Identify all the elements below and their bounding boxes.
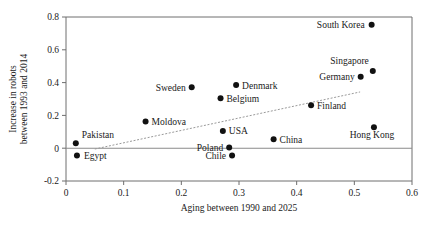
data-point-label: Denmark	[242, 81, 278, 91]
y-tick-label: 0.4	[47, 78, 59, 88]
data-point-label: Hong Kong	[350, 130, 395, 140]
data-point-label: Sweden	[156, 83, 186, 93]
y-tick-label: 0.2	[47, 111, 59, 121]
data-point-label: South Korea	[317, 20, 366, 30]
data-point-label: China	[280, 135, 303, 145]
y-axis-title-line-2: between 1993 and 2014	[19, 54, 29, 145]
data-point-marker	[369, 22, 375, 28]
chart-canvas: 00.10.20.30.40.50.6 -0.200.20.40.60.8 Pa…	[0, 0, 434, 226]
data-point-marker	[271, 136, 277, 142]
data-point-marker	[189, 84, 195, 90]
x-tick-label: 0	[64, 188, 69, 198]
y-tick-label: 0.8	[47, 12, 59, 22]
y-tick-label: -0.2	[44, 176, 59, 186]
data-point-label: Belgium	[227, 94, 260, 104]
y-tick-label: 0.6	[47, 45, 59, 55]
data-point-marker	[358, 74, 364, 80]
scatter-chart-figure: 00.10.20.30.40.50.6 -0.200.20.40.60.8 Pa…	[0, 0, 434, 226]
data-point-marker	[229, 153, 235, 159]
data-point-marker	[74, 153, 80, 159]
data-point-marker	[218, 95, 224, 101]
data-point-marker	[143, 118, 149, 124]
data-point-label: Chile	[205, 151, 226, 161]
y-tick-label: 0	[54, 144, 59, 154]
x-tick-label: 0.1	[118, 188, 130, 198]
data-point-label: Moldova	[152, 117, 187, 127]
data-point-marker	[370, 68, 376, 74]
data-point-marker	[308, 102, 314, 108]
data-point-label: Germany	[319, 72, 355, 82]
data-point-marker	[226, 144, 232, 150]
data-point-label: Singapore	[330, 56, 369, 66]
data-point-label: Pakistan	[82, 130, 114, 140]
x-tick-label: 0.5	[348, 188, 360, 198]
data-point-marker	[220, 128, 226, 134]
y-axis-title-line-1: Increase in robots	[8, 65, 18, 133]
data-point-label: Finland	[317, 101, 346, 111]
x-tick-label: 0.4	[291, 188, 303, 198]
x-tick-label: 0.2	[175, 188, 187, 198]
data-point-marker	[73, 140, 79, 146]
data-point-label: Egypt	[84, 151, 107, 161]
x-axis-title: Aging between 1990 and 2025	[181, 203, 298, 213]
x-tick-label: 0.3	[233, 188, 245, 198]
data-point-marker	[233, 82, 239, 88]
x-tick-label: 0.6	[406, 188, 418, 198]
data-point-label: USA	[229, 126, 248, 136]
